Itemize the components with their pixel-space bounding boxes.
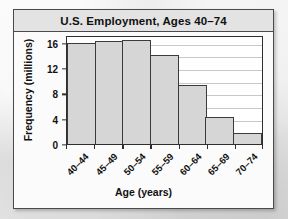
plot-area bbox=[66, 36, 263, 145]
chart-body: Frequency (millions) 0481216 40–4445–495… bbox=[14, 32, 273, 208]
chart-figure: U.S. Employment, Ages 40–74 Frequency (m… bbox=[13, 9, 274, 209]
x-axis-tick-label: 65–69 bbox=[205, 151, 231, 177]
x-axis-tick-label: 50–54 bbox=[121, 151, 147, 177]
y-axis-tick-label: 16 bbox=[47, 38, 58, 49]
y-axis-tick-label: 8 bbox=[52, 89, 58, 100]
bar bbox=[178, 85, 207, 144]
bar bbox=[67, 43, 96, 144]
x-axis-label: Age (years) bbox=[14, 186, 273, 198]
x-axis-tick-label: 60–64 bbox=[177, 151, 203, 177]
bar bbox=[150, 55, 179, 144]
x-axis-tick-label: 45–49 bbox=[93, 151, 119, 177]
y-axis-tick-labels: 0481216 bbox=[38, 36, 62, 145]
x-axis-tick-label: 70–74 bbox=[234, 151, 260, 177]
bar bbox=[233, 133, 262, 144]
y-axis-tick-label: 0 bbox=[52, 140, 58, 151]
y-axis-tick-label: 12 bbox=[47, 63, 58, 74]
bar bbox=[122, 40, 151, 144]
x-axis-tick-label: 40–44 bbox=[65, 151, 91, 177]
histogram-bars bbox=[67, 37, 262, 144]
y-axis-label: Frequency (millions) bbox=[22, 30, 34, 150]
bar bbox=[205, 117, 234, 144]
chart-title: U.S. Employment, Ages 40–74 bbox=[60, 15, 227, 27]
y-axis-tick-label: 4 bbox=[52, 114, 58, 125]
x-axis-tick-labels: 40–4445–4950–5455–5960–6465–6970–74 bbox=[66, 145, 263, 185]
x-axis-tick-label: 55–59 bbox=[149, 151, 175, 177]
bar bbox=[95, 41, 124, 144]
chart-title-bar: U.S. Employment, Ages 40–74 bbox=[14, 10, 273, 32]
